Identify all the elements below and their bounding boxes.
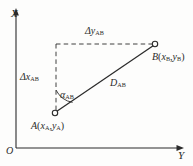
origin-label: O bbox=[6, 146, 13, 156]
delta-x-symbol: Δx bbox=[20, 71, 30, 82]
delta-y-symbol: Δy bbox=[85, 25, 95, 36]
axis-label-y: Y bbox=[178, 150, 184, 161]
point-a-marker bbox=[52, 110, 57, 115]
delta-y-subscript: AB bbox=[95, 29, 104, 36]
delta-x-label: ΔxAB bbox=[20, 72, 39, 82]
point-b-y-subscript: B bbox=[177, 55, 181, 62]
distance-label: DAB bbox=[110, 78, 126, 88]
segment-ab-line bbox=[57, 46, 154, 112]
alpha-angle-label: αAB bbox=[60, 90, 74, 100]
point-b-paren-close: ) bbox=[181, 51, 184, 62]
point-b-x-subscript: B bbox=[166, 55, 170, 62]
diagram-canvas: X Y O ΔyAB ΔxAB αAB DAB A(xA,yA) B(xB,yB… bbox=[0, 0, 193, 166]
delta-y-label: ΔyAB bbox=[85, 26, 104, 36]
point-b-label: B(xB,yB) bbox=[152, 52, 184, 62]
point-b-marker bbox=[152, 41, 157, 46]
point-a-label: A(xA,yA) bbox=[31, 121, 64, 131]
delta-x-subscript: AB bbox=[30, 75, 39, 82]
point-a-paren-close: ) bbox=[61, 120, 64, 131]
figure-svg bbox=[0, 0, 193, 166]
axis-label-x: X bbox=[11, 8, 18, 19]
point-a-x-subscript: A bbox=[45, 124, 49, 131]
distance-subscript: AB bbox=[117, 81, 126, 88]
point-a-y-subscript: A bbox=[56, 124, 60, 131]
alpha-subscript: AB bbox=[65, 93, 74, 100]
